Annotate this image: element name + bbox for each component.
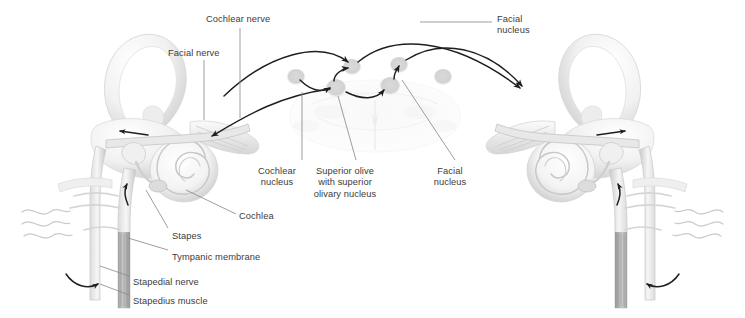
label-cochlear-nucleus: Cochlear nucleus <box>248 166 306 189</box>
node-right-outer <box>434 69 452 85</box>
label-cochlear-nerve: Cochlear nerve <box>206 14 270 25</box>
anatomy-illustration <box>0 0 745 318</box>
label-tympanic-membrane: Tympanic membrane <box>172 252 260 263</box>
right-sound-waves <box>673 210 723 238</box>
label-stapes: Stapes <box>172 231 201 242</box>
left-sound-waves <box>22 210 72 238</box>
label-superior-olive: Superior olive with superior olivary nuc… <box>302 166 388 200</box>
left-stapes <box>149 180 167 192</box>
label-stapedial-nerve: Stapedial nerve <box>133 277 199 288</box>
label-cochlea: Cochlea <box>239 211 274 222</box>
label-facial-nucleus-mid: Facial nucleus <box>425 166 475 189</box>
leader-cochlea <box>186 190 236 214</box>
leader-tympanic-membrane <box>128 238 168 250</box>
left-facial-nerve-trunk <box>90 146 106 300</box>
label-facial-nerve: Facial nerve <box>168 48 220 59</box>
right-stapes <box>578 180 596 192</box>
right-ear-illustration <box>486 34 723 308</box>
arrow-efferent-right-arch <box>406 48 522 86</box>
anatomical-figure: Cochlear nerve Facial nerve Facial nucle… <box>0 0 745 318</box>
right-facial-nerve-trunk <box>639 146 655 300</box>
label-facial-nucleus-top: Facial nucleus <box>497 14 530 37</box>
left-cochlea <box>150 138 218 202</box>
right-cochlea <box>527 138 595 202</box>
node-right-facial-nucleus <box>380 77 400 95</box>
node-right-superior-olive <box>390 57 408 73</box>
label-stapedius-muscle: Stapedius muscle <box>133 296 208 307</box>
left-ear-illustration <box>22 34 259 308</box>
